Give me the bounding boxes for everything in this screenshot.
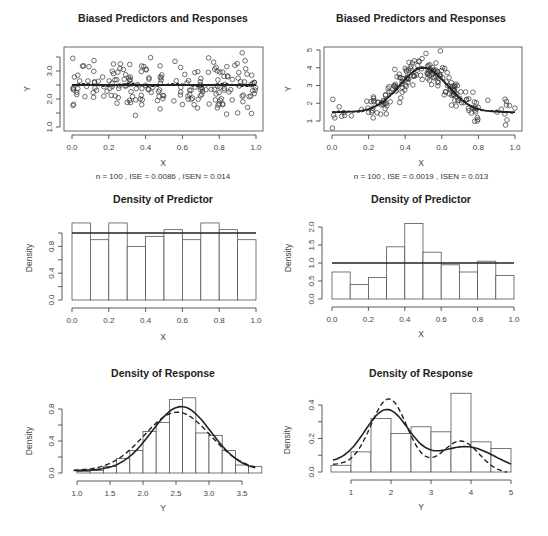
y-axis-label: Density [282,425,292,454]
histogram-bars [72,223,256,300]
histogram-bar [146,236,164,300]
histogram-bar [391,433,411,472]
histogram-bar [238,240,256,300]
x-axis-label: Y [160,503,166,513]
x-tick-label: 1.0 [509,143,521,152]
histogram-bar [423,252,441,299]
x-tick-label: 1.0 [250,316,262,325]
histogram-bar [127,246,145,300]
y-tick-label: 0.0 [47,294,56,306]
y-tick-label: 3.0 [45,65,54,77]
x-tick-label: 1.5 [104,489,116,498]
x-tick-label: 0.8 [473,143,485,152]
chart-title: Density of Response [369,367,473,379]
histogram-bar [371,418,391,472]
y-axis-label: Density [24,243,34,272]
x-tick-label: 0.4 [140,316,152,325]
y-tick-label: 1.0 [45,121,54,133]
histogram-bar [156,423,169,473]
x-tick-label: 0.6 [436,315,448,324]
x-tick-label: 1.0 [508,315,520,324]
histogram-bar [196,433,209,473]
x-tick-label: 3.0 [203,489,215,498]
histogram-bar [201,223,219,300]
y-tick-label: 1.0 [307,257,316,269]
histogram-bar [72,223,90,300]
x-tick-label: 0.6 [177,143,189,152]
y-tick-label: 0.8 [47,403,56,415]
y-tick-label: 2.0 [307,221,316,233]
x-tick-label: 0.0 [66,316,78,325]
histogram-bars [77,398,262,473]
x-tick-label: 0.4 [140,143,152,152]
x-tick-label: 2 [389,488,394,497]
x-tick-label: 0.0 [66,143,78,152]
true-curve [332,68,515,112]
x-tick-label: 0.8 [214,143,226,152]
histogram-bar [332,272,350,299]
plot-frame [324,47,522,131]
y-tick-label: 2 [305,100,314,105]
y-tick-label: 1.5 [307,239,316,251]
x-tick-label: 0.6 [436,143,448,152]
x-tick-label: 0.8 [472,315,484,324]
y-axis-label: Density [283,243,293,272]
x-tick-label: 5 [509,488,514,497]
y-tick-label: 2.0 [45,93,54,105]
x-tick-label: 0.2 [103,143,115,152]
histogram-bar [387,247,405,299]
chart-p4: 0.00.20.40.60.81.00.00.51.01.52.0Density… [283,193,520,339]
plot-canvas: 0.00.20.40.60.81.01.02.03.0Biased Predic… [0,0,548,536]
histogram-bar [471,442,491,472]
x-tick-label: 0.2 [103,316,115,325]
histogram-bars [332,223,514,299]
x-tick-label: 4 [469,488,474,497]
histogram-bar [478,261,496,299]
figure: 0.00.20.40.60.81.01.02.03.0Biased Predic… [0,0,548,536]
x-axis-label: X [160,158,166,168]
x-axis-label: X [418,329,424,339]
x-axis-label: Y [418,502,424,512]
x-tick-label: 0.2 [363,315,375,324]
x-tick-label: 0.0 [326,315,338,324]
y-tick-label: 0.0 [307,293,316,305]
estimate-curve [332,67,515,113]
chart-title: Density of Predictor [113,193,213,205]
x-tick-label: 3.5 [236,489,248,498]
x-axis-label: X [160,332,166,342]
histogram-bars [331,393,511,472]
x-tick-label: 2.0 [137,489,149,498]
scatter-points [330,49,517,131]
histogram-bar [331,465,351,472]
y-tick-label: 1 [305,118,314,123]
y-tick-label: 5 [305,47,314,52]
chart-title: Biased Predictors and Responses [336,12,506,24]
chart-title: Biased Predictors and Responses [78,12,248,24]
y-axis-label: Density [24,426,34,455]
histogram-bar [451,393,471,472]
chart-p1: 0.00.20.40.60.81.01.02.03.0Biased Predic… [22,12,263,181]
histogram-bar [235,465,248,473]
x-tick-label: 1 [349,488,354,497]
x-tick-label: 0.4 [399,315,411,324]
histogram-bar [431,432,451,472]
y-tick-label: 0.2 [307,432,316,444]
y-tick-label: 0.8 [47,240,56,252]
y-axis-label: Y [283,86,293,92]
chart-p5: 1.01.52.02.53.03.50.00.40.8Density of Re… [24,367,262,513]
y-tick-label: 0.0 [307,466,316,478]
chart-p2: 0.00.20.40.60.81.012345Biased Predictors… [283,12,522,181]
x-tick-label: 1.0 [250,143,262,152]
histogram-bar [164,230,182,300]
histogram-bar [441,265,459,299]
y-tick-label: 0.0 [47,467,56,479]
chart-subtitle: n = 100 , ISE = 0.0086 , ISEN = 0.014 [96,172,231,181]
chart-title: Density of Predictor [371,193,471,205]
histogram-bar [143,431,156,473]
histogram-bar [368,277,386,299]
histogram-bar [90,240,108,300]
x-tick-label: 0.4 [400,143,412,152]
histogram-bar [459,272,477,299]
y-tick-label: 0.4 [307,399,316,411]
histogram-bar [405,223,423,299]
